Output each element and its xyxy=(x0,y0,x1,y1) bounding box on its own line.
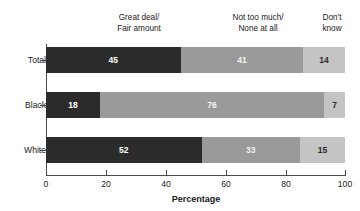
chart-legend-headers: Great deal/ Fair amount Not too much/ No… xyxy=(0,0,360,40)
x-axis-line xyxy=(46,175,346,176)
x-tick-0 xyxy=(46,170,47,175)
bar-row-white: 52 33 15 xyxy=(46,137,345,163)
legend-label-dont-know: Don't know xyxy=(309,13,355,34)
x-axis-label-0: 0 xyxy=(26,179,66,189)
legend-label-great-deal-fair-amount: Great deal/ Fair amount xyxy=(79,13,199,34)
x-tick-40 xyxy=(166,170,167,175)
stacked-bar-chart: Great deal/ Fair amount Not too much/ No… xyxy=(0,0,360,211)
x-axis-label-100: 100 xyxy=(325,179,360,189)
x-axis-title: Percentage xyxy=(46,194,346,204)
x-tick-80 xyxy=(286,170,287,175)
x-tick-60 xyxy=(226,170,227,175)
bar-segment-black-not-too-much: 76 xyxy=(100,92,324,118)
plot-area: 45 41 14 18 76 7 52 33 15 xyxy=(46,44,345,172)
x-axis-label-20: 20 xyxy=(86,179,126,189)
bar-segment-white-dont-know: 15 xyxy=(300,137,345,163)
bar-segment-black-dont-know: 7 xyxy=(324,92,345,118)
x-axis-label-80: 80 xyxy=(266,179,306,189)
bar-segment-total-not-too-much: 41 xyxy=(181,47,304,73)
bar-segment-white-great-deal: 52 xyxy=(46,137,202,163)
bar-segment-black-great-deal: 18 xyxy=(46,92,100,118)
bar-segment-total-dont-know: 14 xyxy=(303,47,345,73)
x-axis-label-60: 60 xyxy=(206,179,246,189)
x-axis-label-40: 40 xyxy=(146,179,186,189)
bar-segment-white-not-too-much: 33 xyxy=(202,137,301,163)
bar-row-total: 45 41 14 xyxy=(46,47,345,73)
x-tick-20 xyxy=(106,170,107,175)
legend-label-not-too-much-none-at-all: Not too much/ None at all xyxy=(203,13,313,34)
bar-row-black: 18 76 7 xyxy=(46,92,345,118)
bar-segment-total-great-deal: 45 xyxy=(46,47,181,73)
x-tick-100 xyxy=(345,170,346,175)
